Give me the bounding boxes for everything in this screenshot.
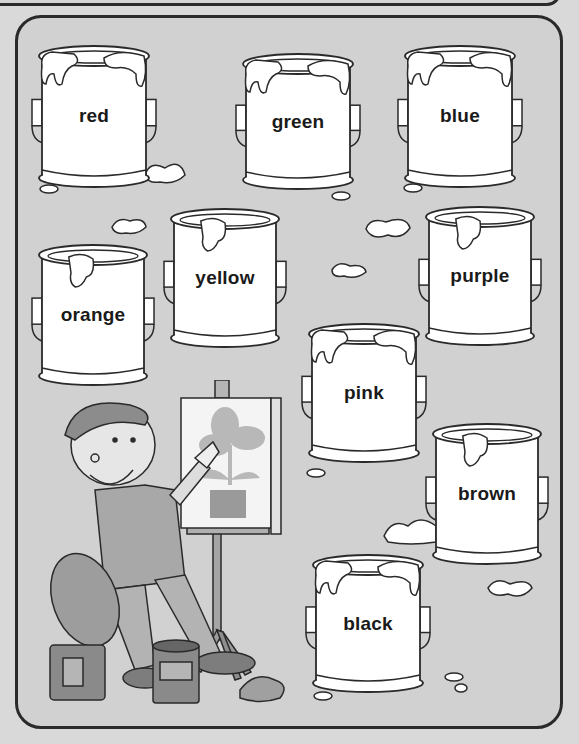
paint-splat (328, 258, 370, 282)
paint-can-blue: blue (404, 44, 516, 190)
color-word-label: black (312, 613, 424, 635)
color-word-label: orange (38, 304, 148, 326)
color-word-label: brown (432, 483, 542, 505)
color-word-label: pink (308, 382, 420, 404)
paint-splat (362, 213, 414, 243)
paint-can-green: green (242, 52, 354, 192)
paint-can-pink: pink (308, 322, 420, 465)
paint-can-brown: brown (432, 422, 542, 567)
paint-drop (305, 467, 327, 479)
paint-can-black: black (312, 553, 424, 695)
boy-artist-illustration (35, 380, 290, 720)
paint-splat (108, 213, 150, 239)
paint-splat (484, 574, 536, 604)
paint-can-yellow: yellow (170, 207, 280, 350)
color-word-label: purple (425, 265, 535, 287)
paint-drop (452, 682, 470, 694)
color-word-label: red (38, 105, 150, 127)
color-word-label: yellow (170, 267, 280, 289)
paint-can-orange: orange (38, 243, 148, 388)
color-word-label: green (242, 111, 354, 133)
color-word-label: blue (404, 105, 516, 127)
page-header-strip (0, 0, 561, 6)
paint-can-purple: purple (425, 205, 535, 348)
paint-can-red: red (38, 44, 150, 190)
